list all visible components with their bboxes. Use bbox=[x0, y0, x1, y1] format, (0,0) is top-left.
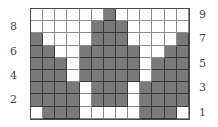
empty-cell bbox=[152, 33, 164, 45]
filled-cell bbox=[92, 70, 104, 82]
filled-cell bbox=[152, 70, 164, 82]
filled-cell bbox=[140, 82, 152, 94]
empty-cell bbox=[80, 82, 92, 94]
empty-cell bbox=[55, 33, 67, 45]
empty-cell bbox=[177, 107, 189, 119]
filled-cell bbox=[92, 33, 104, 45]
filled-cell bbox=[165, 70, 177, 82]
filled-cell bbox=[31, 70, 43, 82]
filled-cell bbox=[80, 70, 92, 82]
empty-cell bbox=[31, 21, 43, 33]
filled-cell bbox=[43, 70, 55, 82]
row-number-label: 4 bbox=[10, 70, 17, 82]
empty-cell bbox=[177, 21, 189, 33]
filled-cell bbox=[165, 82, 177, 94]
filled-cell bbox=[104, 33, 116, 45]
filled-cell bbox=[55, 107, 67, 119]
row-number-label: 6 bbox=[10, 46, 17, 58]
filled-cell bbox=[55, 58, 67, 70]
empty-cell bbox=[43, 33, 55, 45]
empty-cell bbox=[43, 9, 55, 21]
empty-cell bbox=[31, 9, 43, 21]
empty-cell bbox=[165, 9, 177, 21]
filled-cell bbox=[104, 9, 116, 21]
empty-cell bbox=[128, 94, 140, 106]
filled-cell bbox=[152, 58, 164, 70]
filled-cell bbox=[165, 107, 177, 119]
empty-cell bbox=[67, 58, 79, 70]
filled-cell bbox=[31, 58, 43, 70]
filled-cell bbox=[116, 58, 128, 70]
filled-cell bbox=[43, 82, 55, 94]
empty-cell bbox=[140, 58, 152, 70]
empty-cell bbox=[128, 9, 140, 21]
empty-cell bbox=[165, 33, 177, 45]
empty-cell bbox=[80, 107, 92, 119]
knitting-chart-grid bbox=[30, 8, 190, 120]
empty-cell bbox=[140, 70, 152, 82]
empty-cell bbox=[104, 107, 116, 119]
empty-cell bbox=[67, 9, 79, 21]
empty-cell bbox=[31, 107, 43, 119]
row-number-label: 1 bbox=[199, 107, 206, 119]
filled-cell bbox=[177, 94, 189, 106]
filled-cell bbox=[116, 94, 128, 106]
filled-cell bbox=[92, 46, 104, 58]
filled-cell bbox=[67, 82, 79, 94]
row-number-label: 7 bbox=[199, 33, 206, 45]
empty-cell bbox=[116, 9, 128, 21]
filled-cell bbox=[80, 58, 92, 70]
empty-cell bbox=[80, 33, 92, 45]
empty-cell bbox=[177, 9, 189, 21]
empty-cell bbox=[152, 46, 164, 58]
filled-cell bbox=[177, 33, 189, 45]
filled-cell bbox=[31, 94, 43, 106]
filled-cell bbox=[140, 94, 152, 106]
filled-cell bbox=[67, 94, 79, 106]
filled-cell bbox=[116, 70, 128, 82]
empty-cell bbox=[140, 9, 152, 21]
empty-cell bbox=[128, 21, 140, 33]
empty-cell bbox=[67, 33, 79, 45]
empty-cell bbox=[80, 21, 92, 33]
filled-cell bbox=[116, 46, 128, 58]
filled-cell bbox=[92, 58, 104, 70]
filled-cell bbox=[116, 21, 128, 33]
empty-cell bbox=[43, 21, 55, 33]
empty-cell bbox=[128, 107, 140, 119]
empty-cell bbox=[80, 94, 92, 106]
empty-cell bbox=[165, 21, 177, 33]
filled-cell bbox=[31, 82, 43, 94]
filled-cell bbox=[128, 70, 140, 82]
filled-cell bbox=[177, 82, 189, 94]
filled-cell bbox=[128, 46, 140, 58]
filled-cell bbox=[152, 107, 164, 119]
filled-cell bbox=[128, 58, 140, 70]
filled-cell bbox=[104, 46, 116, 58]
empty-cell bbox=[152, 9, 164, 21]
filled-cell bbox=[43, 107, 55, 119]
filled-cell bbox=[43, 46, 55, 58]
filled-cell bbox=[104, 58, 116, 70]
filled-cell bbox=[31, 33, 43, 45]
filled-cell bbox=[104, 70, 116, 82]
empty-cell bbox=[67, 70, 79, 82]
filled-cell bbox=[92, 94, 104, 106]
filled-cell bbox=[92, 82, 104, 94]
filled-cell bbox=[165, 94, 177, 106]
empty-cell bbox=[55, 46, 67, 58]
empty-cell bbox=[80, 9, 92, 21]
filled-cell bbox=[177, 70, 189, 82]
empty-cell bbox=[140, 46, 152, 58]
filled-cell bbox=[67, 107, 79, 119]
filled-cell bbox=[177, 58, 189, 70]
filled-cell bbox=[165, 46, 177, 58]
filled-cell bbox=[165, 58, 177, 70]
filled-cell bbox=[116, 82, 128, 94]
filled-cell bbox=[31, 46, 43, 58]
filled-cell bbox=[43, 58, 55, 70]
filled-cell bbox=[104, 21, 116, 33]
empty-cell bbox=[55, 21, 67, 33]
filled-cell bbox=[92, 21, 104, 33]
filled-cell bbox=[152, 82, 164, 94]
